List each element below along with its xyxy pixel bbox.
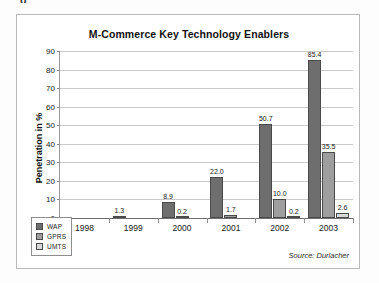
legend-swatch-wap: [36, 223, 43, 230]
y-tick-label: 90: [25, 47, 55, 56]
legend-swatch-umts: [36, 243, 43, 250]
y-tick-mark: [57, 107, 60, 108]
value-label-umts-2003: 2.6: [331, 204, 354, 211]
legend-label: WAP: [47, 223, 62, 230]
y-tick-label: 30: [25, 158, 55, 167]
legend-item-gprs[interactable]: GPRS: [36, 232, 66, 241]
y-tick-mark: [57, 181, 60, 182]
y-tick-mark: [57, 144, 60, 145]
x-tick-label-2002: 2002: [255, 223, 304, 233]
chart-figure: g M-Commerce Key Technology Enablers Pen…: [0, 0, 379, 283]
bar-umts-2002: [287, 216, 300, 218]
y-tick-label: 20: [25, 176, 55, 185]
value-label-gprs-2003: 35.5: [317, 143, 340, 150]
y-tick-mark: [57, 162, 60, 163]
cropped-text-artifact: g: [20, 0, 27, 3]
y-tick-mark: [57, 70, 60, 71]
legend-swatch-gprs: [36, 233, 43, 240]
value-label-gprs-2002: 10.0: [268, 190, 291, 197]
y-tick-label: 50: [25, 121, 55, 130]
y-tick-mark: [57, 51, 60, 52]
x-tick-label-2001: 2001: [207, 223, 256, 233]
legend-item-umts[interactable]: UMTS: [36, 242, 66, 251]
x-tick-label-2003: 2003: [304, 223, 353, 233]
value-label-wap-2001: 22.0: [205, 168, 228, 175]
plot-area: 0102030405060708090 1.38.90.222.01.750.7…: [59, 51, 353, 219]
x-tick-label-1999: 1999: [109, 223, 158, 233]
chart-frame: M-Commerce Key Technology Enablers Penet…: [16, 14, 360, 269]
value-label-wap-1999: 1.3: [108, 207, 131, 214]
bar-umts-2003: [336, 213, 349, 218]
y-tick-label: 70: [25, 84, 55, 93]
x-tick-label-2000: 2000: [158, 223, 207, 233]
value-label-umts-2002: 0.2: [282, 208, 305, 215]
x-tick-mark: [353, 218, 354, 223]
y-tick-mark: [57, 88, 60, 89]
bar-wap-2002: [259, 124, 272, 218]
y-tick-label: 60: [25, 102, 55, 111]
chart-title: M-Commerce Key Technology Enablers: [17, 28, 361, 40]
value-label-wap-2003: 85.4: [303, 51, 326, 58]
value-label-gprs-2001: 1.7: [219, 206, 242, 213]
y-tick-mark: [57, 199, 60, 200]
source-attribution: Source: Durlacher: [289, 251, 349, 260]
bar-gprs-2000: [176, 216, 189, 218]
legend: WAPGPRSUMTS: [31, 217, 72, 256]
legend-label: UMTS: [47, 243, 66, 250]
legend-label: GPRS: [47, 233, 66, 240]
value-label-wap-2000: 8.9: [157, 193, 180, 200]
y-tick-label: 10: [25, 195, 55, 204]
bar-gprs-2001: [224, 215, 237, 218]
value-label-wap-2002: 50.7: [254, 115, 277, 122]
value-label-gprs-2000: 0.2: [171, 208, 194, 215]
y-tick-label: 40: [25, 139, 55, 148]
y-tick-label: 80: [25, 65, 55, 74]
bar-wap-1999: [113, 216, 126, 218]
y-tick-mark: [57, 125, 60, 126]
bar-wap-2003: [308, 60, 321, 218]
legend-item-wap[interactable]: WAP: [36, 222, 66, 231]
